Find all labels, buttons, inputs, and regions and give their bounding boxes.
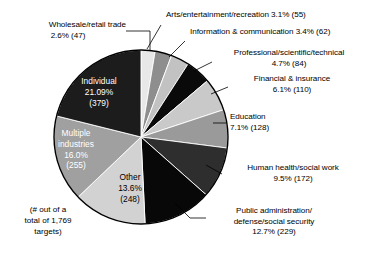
footnote-line1: (# out of a xyxy=(2,204,94,215)
label-information-line1: Information & communication 3.4% (62) xyxy=(190,27,330,38)
label-education-line2: 7.1% (128) xyxy=(230,123,312,134)
label-financial-line2: 6.1% (110) xyxy=(232,85,352,96)
label-multiple-line3: 16.0% xyxy=(36,150,116,161)
label-health: Human health/social work 9.5% (172) xyxy=(226,163,360,184)
label-professional-line2: 4.7% (84) xyxy=(216,59,362,70)
label-public-line2: defense/social security xyxy=(209,217,339,228)
label-information: Information & communication 3.4% (62) xyxy=(190,27,330,38)
leader-line-information xyxy=(169,41,185,57)
leader-line-wholesale xyxy=(126,31,150,50)
label-education-line1: Education xyxy=(230,112,312,123)
label-arts: Arts/entertainment/recreation 3.1% (55) xyxy=(166,10,306,21)
label-wholesale-line2: 2.6% (47) xyxy=(14,31,126,42)
label-multiple-line4: (255) xyxy=(36,160,116,171)
label-other-line2: 13.6% xyxy=(102,183,158,194)
chart-footnote: (# out of a total of 1,769 targets) xyxy=(2,204,94,238)
label-public-line1: Public administration/ xyxy=(209,206,339,217)
label-public: Public administration/ defense/social se… xyxy=(209,206,339,238)
leader-line-arts xyxy=(147,25,161,49)
label-individual: Individual 21.09% (379) xyxy=(52,76,146,108)
footnote-line3: targets) xyxy=(2,226,94,237)
footnote-line2: total of 1,769 xyxy=(2,215,94,226)
label-financial: Financial & insurance 6.1% (110) xyxy=(232,74,352,95)
label-professional-line1: Professional/scientific/technical xyxy=(216,48,362,59)
label-public-line3: 12.7% (229) xyxy=(209,227,339,238)
label-financial-line1: Financial & insurance xyxy=(232,74,352,85)
label-wholesale: Wholesale/retail trade 2.6% (47) xyxy=(14,20,126,41)
label-individual-line1: Individual xyxy=(52,76,146,87)
label-individual-line2: 21.09% xyxy=(52,87,146,98)
leader-line-professional xyxy=(194,62,212,71)
label-multiple: Multiple industries 16.0% (255) xyxy=(36,128,116,171)
label-wholesale-line1: Wholesale/retail trade xyxy=(14,20,126,31)
label-arts-line1: Arts/entertainment/recreation 3.1% (55) xyxy=(166,10,306,21)
label-other-line1: Other xyxy=(102,172,158,183)
label-individual-line3: (379) xyxy=(52,98,146,109)
label-education: Education 7.1% (128) xyxy=(230,112,312,133)
pie-chart-figure: Wholesale/retail trade 2.6% (47) Arts/en… xyxy=(0,0,366,260)
label-multiple-line1: Multiple xyxy=(36,128,116,139)
label-other-line3: (248) xyxy=(102,194,158,205)
label-multiple-line2: industries xyxy=(36,139,116,150)
label-health-line2: 9.5% (172) xyxy=(226,174,360,185)
label-health-line1: Human health/social work xyxy=(226,163,360,174)
label-professional: Professional/scientific/technical 4.7% (… xyxy=(216,48,362,69)
label-other: Other 13.6% (248) xyxy=(102,172,158,204)
